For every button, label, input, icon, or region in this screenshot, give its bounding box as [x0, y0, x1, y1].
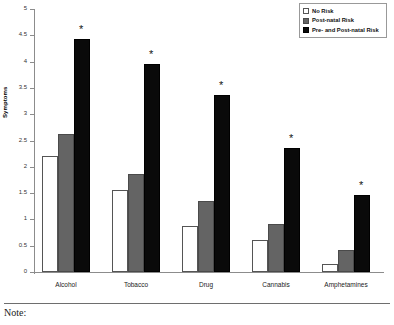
- note-label: Note:: [4, 307, 26, 319]
- y-axis-tick: 4.5: [30, 35, 35, 36]
- x-axis-line: [34, 272, 384, 273]
- bar[interactable]: [214, 95, 230, 272]
- figure-container: Symptoms 00.511.522.533.544.55 ***** Alc…: [0, 0, 394, 325]
- bar[interactable]: [252, 240, 268, 272]
- y-axis-tick-label: 0.5: [19, 242, 27, 249]
- y-axis-tick: 5: [30, 9, 35, 10]
- y-axis-tick: 0.5: [30, 246, 35, 247]
- y-axis-label: Symptoms: [2, 87, 8, 118]
- x-axis-tick-label: Cannabis: [236, 281, 316, 289]
- note-divider: [4, 303, 390, 304]
- y-axis-tick: 3.5: [30, 88, 35, 89]
- y-axis-tick-label: 3: [24, 110, 27, 117]
- legend-label-pre-and-post-natal-risk: Pre- and Post-natal Risk: [312, 27, 379, 34]
- y-axis-tick: 2.5: [30, 141, 35, 142]
- y-axis-tick: 3: [30, 114, 35, 115]
- x-axis-tick-label: Tobacco: [96, 281, 176, 289]
- y-axis-tick-label: 2: [24, 163, 27, 170]
- significance-star: *: [219, 80, 223, 91]
- significance-star: *: [79, 24, 83, 35]
- y-axis-tick: 4: [30, 62, 35, 63]
- y-axis-tick-label: 4.5: [19, 31, 27, 38]
- y-axis-tick-label: 3.5: [19, 84, 27, 91]
- legend-item-post-natal-risk: Post-natal Risk: [303, 16, 383, 25]
- legend-swatch-icon-post-natal-risk: [303, 18, 309, 24]
- bar[interactable]: [182, 226, 198, 272]
- y-axis-tick-label: 4: [24, 58, 27, 65]
- bar[interactable]: [322, 264, 338, 272]
- significance-star: *: [359, 180, 363, 191]
- bar[interactable]: [144, 64, 160, 272]
- chart-legend: No Risk Post-natal Risk Pre- and Post-na…: [299, 3, 387, 38]
- y-axis-tick-label: 0: [24, 268, 27, 275]
- bar-group: [182, 9, 230, 272]
- bar[interactable]: [112, 190, 128, 272]
- x-axis-tick-label: Drug: [166, 281, 246, 289]
- bar[interactable]: [284, 148, 300, 272]
- y-axis-tick: 1: [30, 219, 35, 220]
- legend-swatch-icon-pre-and-post-natal-risk: [303, 27, 309, 33]
- bar[interactable]: [74, 39, 90, 272]
- legend-item-pre-and-post-natal-risk: Pre- and Post-natal Risk: [303, 26, 383, 35]
- bar[interactable]: [128, 174, 144, 272]
- y-axis-tick: 1.5: [30, 193, 35, 194]
- significance-star: *: [149, 49, 153, 60]
- y-axis-tick-label: 1.5: [19, 189, 27, 196]
- bar[interactable]: [58, 134, 74, 272]
- bar[interactable]: [338, 250, 354, 272]
- x-axis-tick-label: Amphetamines: [306, 281, 386, 289]
- y-axis-tick: 2: [30, 167, 35, 168]
- bar-group: [42, 9, 90, 272]
- bar[interactable]: [198, 201, 214, 272]
- y-axis-tick-label: 2.5: [19, 137, 27, 144]
- y-axis-tick-label: 1: [24, 215, 27, 222]
- legend-label-no-risk: No Risk: [312, 8, 334, 15]
- y-axis-line: [34, 10, 35, 274]
- bar[interactable]: [268, 224, 284, 272]
- bar[interactable]: [354, 195, 370, 272]
- bar[interactable]: [42, 156, 58, 272]
- significance-star: *: [289, 133, 293, 144]
- legend-item-no-risk: No Risk: [303, 7, 383, 16]
- y-axis-tick: 0: [30, 272, 35, 273]
- x-axis-tick-label: Alcohol: [26, 281, 106, 289]
- plot-area: 00.511.522.533.544.55 *****: [34, 10, 384, 273]
- legend-swatch-icon-no-risk: [303, 8, 309, 14]
- y-axis-tick-label: 5: [24, 5, 27, 12]
- legend-label-post-natal-risk: Post-natal Risk: [312, 17, 354, 24]
- bar-group: [322, 9, 370, 272]
